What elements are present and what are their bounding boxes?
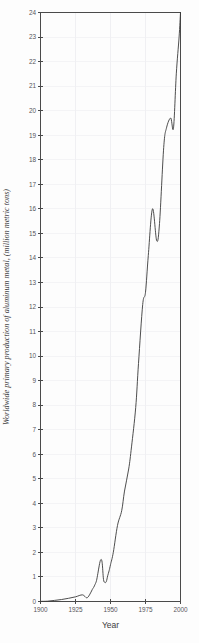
- y-tick-label: 23: [29, 33, 37, 40]
- y-tick-label: 15: [29, 230, 37, 237]
- y-tick-label: 17: [29, 181, 37, 188]
- y-tick-label: 6: [32, 451, 36, 458]
- y-tick-label: 16: [29, 205, 37, 212]
- aluminum-production-line-chart: 0123456789101112131415161718192021222324…: [0, 0, 199, 643]
- y-tick-label: 9: [32, 377, 36, 384]
- y-tick-label: 12: [29, 303, 37, 310]
- y-tick-label: 24: [29, 9, 37, 16]
- y-tick-label: 13: [29, 279, 37, 286]
- y-tick-label: 3: [32, 524, 36, 531]
- y-tick-label: 21: [29, 82, 37, 89]
- chart-background: [0, 0, 199, 643]
- y-tick-label: 14: [29, 254, 37, 261]
- y-tick-label: 11: [29, 328, 36, 335]
- x-tick-label: 1900: [33, 606, 48, 613]
- y-tick-label: 0: [32, 598, 36, 605]
- y-tick-label: 1: [32, 573, 36, 580]
- y-tick-label: 10: [29, 352, 37, 359]
- y-tick-label: 18: [29, 156, 37, 163]
- y-tick-label: 4: [32, 500, 36, 507]
- y-tick-label: 19: [29, 132, 37, 139]
- y-axis-title: Worldwide primary production of aluminum…: [2, 189, 11, 425]
- y-tick-label: 8: [32, 401, 36, 408]
- x-tick-label: 1975: [138, 606, 153, 613]
- x-tick-label: 1925: [68, 606, 83, 613]
- y-tick-label: 20: [29, 107, 37, 114]
- y-tick-label: 22: [29, 58, 37, 65]
- chart-canvas: 0123456789101112131415161718192021222324…: [0, 0, 199, 643]
- y-tick-label: 7: [32, 426, 36, 433]
- y-tick-label: 5: [32, 475, 36, 482]
- y-tick-label: 2: [32, 549, 36, 556]
- x-axis-title: Year: [102, 620, 119, 630]
- x-tick-label: 1950: [103, 606, 118, 613]
- x-tick-label: 2000: [173, 606, 188, 613]
